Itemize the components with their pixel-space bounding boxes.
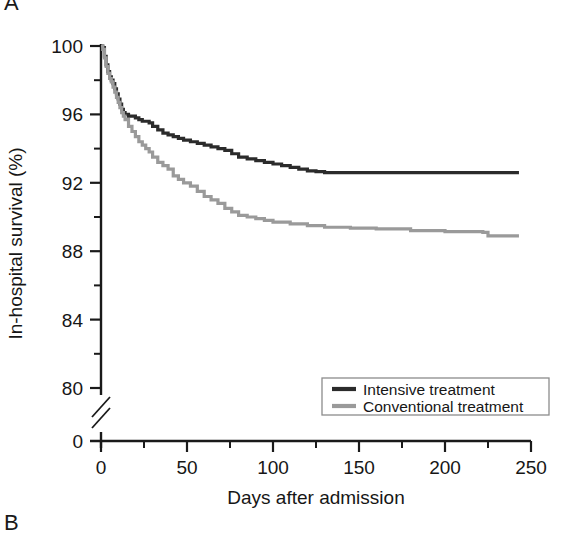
y-tick-label: 84 xyxy=(62,310,84,331)
y-tick-label-zero: 0 xyxy=(72,431,83,452)
y-tick-label: 100 xyxy=(51,36,83,57)
panel-label-b: B xyxy=(4,512,19,534)
x-axis-title: Days after admission xyxy=(227,487,404,508)
y-tick-label: 96 xyxy=(62,104,83,125)
x-tick-label: 250 xyxy=(515,457,547,478)
x-tick-label: 100 xyxy=(257,457,289,478)
legend-label-conventional: Conventional treatment xyxy=(363,398,524,415)
survival-chart: 80848892961000050100150200250Days after … xyxy=(0,0,563,541)
survival-curve-conventional xyxy=(101,46,519,236)
axis-break-slash-1 xyxy=(92,397,110,417)
x-tick-label: 200 xyxy=(429,457,461,478)
x-tick-label: 50 xyxy=(176,457,197,478)
x-tick-label: 150 xyxy=(343,457,375,478)
y-tick-label: 80 xyxy=(62,378,83,399)
legend-label-intensive: Intensive treatment xyxy=(363,381,496,398)
y-axis-title: In-hospital survival (%) xyxy=(5,147,26,339)
axis-break-slash-2 xyxy=(92,408,110,428)
figure-panel-a: A 80848892961000050100150200250Days afte… xyxy=(0,0,563,541)
y-tick-label: 92 xyxy=(62,173,83,194)
y-tick-label: 88 xyxy=(62,241,83,262)
survival-curve-intensive xyxy=(101,46,519,173)
x-tick-label: 0 xyxy=(96,457,107,478)
